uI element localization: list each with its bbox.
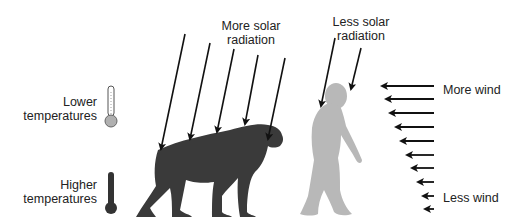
thermometer-cool-icon xyxy=(105,86,117,127)
higher-temp-line1: Higher xyxy=(10,178,97,192)
more-solar-line1: More solar xyxy=(211,19,291,33)
less-wind-label: Less wind xyxy=(443,191,499,205)
solar-arrow-icon xyxy=(217,49,234,132)
higher-temperatures-label: Higher temperatures xyxy=(10,178,97,206)
lower-temperatures-label: Lower temperatures xyxy=(10,95,97,123)
lower-temp-line2: temperatures xyxy=(10,109,97,123)
more-solar-label: More solar radiation xyxy=(211,19,291,47)
solar-arrow-icon xyxy=(190,43,210,139)
less-solar-label: Less solar radiation xyxy=(321,15,401,43)
solar-arrow-icon xyxy=(351,48,361,89)
ape-silhouette xyxy=(136,124,283,217)
less-solar-line1: Less solar xyxy=(321,15,401,29)
hominin-silhouette xyxy=(300,83,362,216)
more-wind-label: More wind xyxy=(443,83,501,97)
solar-arrow-icon xyxy=(161,34,185,149)
higher-temp-line2: temperatures xyxy=(10,192,97,206)
more-solar-line2: radiation xyxy=(211,33,291,47)
wind-arrows xyxy=(382,86,434,209)
lower-temp-line1: Lower xyxy=(10,95,97,109)
less-solar-line2: radiation xyxy=(321,29,401,43)
solar-arrow-icon xyxy=(268,58,285,139)
solar-arrow-icon xyxy=(245,55,258,124)
thermometer-hot-icon xyxy=(105,172,117,214)
